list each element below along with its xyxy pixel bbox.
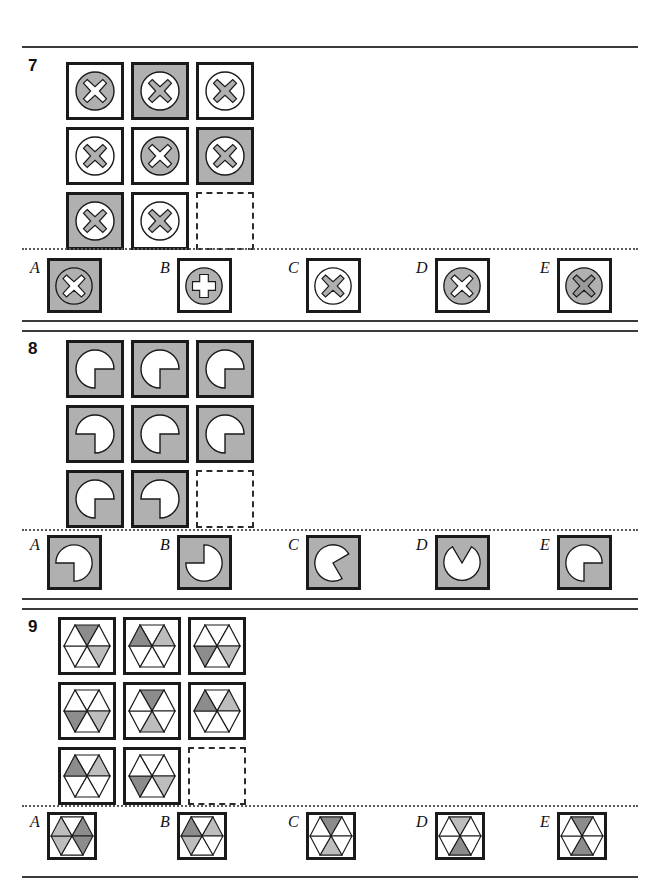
matrix-cell[interactable] [123,617,181,675]
option-box [47,812,97,860]
puzzle-7-bottom-rule [22,320,638,322]
matrix-cell[interactable] [58,747,116,805]
option-d[interactable]: D [416,535,490,590]
puzzle-9-number: 9 [28,617,37,637]
option-b[interactable]: B [160,812,227,860]
option-letter: C [288,535,299,553]
option-a[interactable]: A [30,812,97,860]
option-box [47,535,102,590]
option-letter: C [288,258,299,276]
matrix-cell[interactable] [196,340,254,398]
matrix-cell[interactable] [131,127,189,185]
puzzle-8-top-rule [22,330,638,332]
option-letter: D [416,535,428,553]
matrix-cell[interactable] [196,405,254,463]
option-box [435,258,490,313]
matrix-cell[interactable] [66,62,124,120]
matrix-cell-blank[interactable] [188,747,246,805]
puzzle-7-options: A B C [0,258,662,320]
puzzle-8-options: A B C [0,535,662,597]
puzzle-7-top-rule [22,46,638,48]
option-letter: A [30,258,40,276]
test-page: 7 [0,0,662,889]
matrix-cell[interactable] [131,62,189,120]
option-letter: A [30,812,40,830]
puzzle-8-number: 8 [28,339,37,359]
matrix-cell[interactable] [66,340,124,398]
option-letter: B [160,812,170,830]
matrix-cell[interactable] [123,747,181,805]
matrix-cell[interactable] [196,127,254,185]
option-d[interactable]: D [416,258,490,313]
puzzle-7-number: 7 [28,56,37,76]
option-letter: E [540,812,550,830]
option-letter: D [416,258,428,276]
option-box [177,535,232,590]
option-box [306,258,361,313]
option-e[interactable]: E [540,535,612,590]
option-a[interactable]: A [30,258,102,313]
option-box [177,812,227,860]
matrix-cell[interactable] [123,682,181,740]
matrix-cell[interactable] [66,405,124,463]
matrix-cell[interactable] [131,405,189,463]
matrix-cell[interactable] [131,470,189,528]
puzzle-9-matrix [58,617,246,805]
puzzle-9-top-rule [22,608,638,610]
matrix-cell[interactable] [66,470,124,528]
matrix-cell[interactable] [66,192,124,250]
option-box [557,258,612,313]
puzzle-7-matrix [66,62,254,250]
option-letter: B [160,258,170,276]
option-box [557,812,607,860]
puzzle-8-separator [22,529,638,531]
option-box [557,535,612,590]
option-box [306,812,356,860]
option-box [306,535,361,590]
puzzle-9-separator [22,805,638,807]
option-box [177,258,232,313]
matrix-cell[interactable] [188,682,246,740]
option-box [435,535,490,590]
matrix-cell[interactable] [66,127,124,185]
matrix-cell[interactable] [131,192,189,250]
option-letter: E [540,258,550,276]
puzzle-7-separator [22,248,638,250]
option-c[interactable]: C [288,812,356,860]
option-letter: A [30,535,40,553]
option-c[interactable]: C [288,535,361,590]
matrix-cell[interactable] [196,62,254,120]
option-a[interactable]: A [30,535,102,590]
option-letter: C [288,812,299,830]
option-box [47,258,102,313]
option-e[interactable]: E [540,812,607,860]
matrix-cell[interactable] [58,617,116,675]
matrix-cell-blank[interactable] [196,192,254,250]
option-box [435,812,485,860]
matrix-cell[interactable] [131,340,189,398]
option-e[interactable]: E [540,258,612,313]
matrix-cell-blank[interactable] [196,470,254,528]
puzzle-8-bottom-rule [22,598,638,600]
option-c[interactable]: C [288,258,361,313]
option-d[interactable]: D [416,812,485,860]
puzzle-8-matrix [66,340,254,528]
option-b[interactable]: B [160,258,232,313]
matrix-cell[interactable] [58,682,116,740]
puzzle-9-bottom-rule [22,876,638,878]
option-b[interactable]: B [160,535,232,590]
option-letter: E [540,535,550,553]
option-letter: B [160,535,170,553]
option-letter: D [416,812,428,830]
matrix-cell[interactable] [188,617,246,675]
puzzle-9-options: A B [0,812,662,874]
